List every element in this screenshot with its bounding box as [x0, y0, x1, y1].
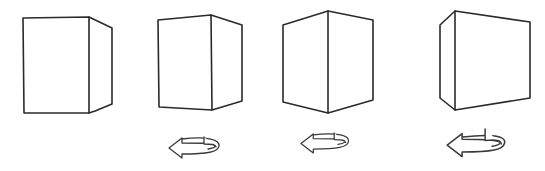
rotate-left-arrow-icon — [169, 137, 219, 158]
rotate-left-arrow-icon — [301, 133, 349, 153]
cube-2-side-face — [211, 15, 242, 110]
cube-3 — [283, 11, 373, 113]
cube-2 — [158, 15, 242, 110]
cube-1-side-face — [89, 17, 112, 113]
cube-1-front-face — [23, 17, 89, 113]
cube-4 — [440, 11, 530, 110]
cube-1 — [23, 17, 112, 113]
diagram-svg — [0, 0, 545, 171]
cube-4-outline — [440, 11, 530, 110]
cube-2-front-face — [158, 15, 212, 110]
rotation-diagram — [0, 0, 545, 171]
rotate-left-arrow-icon — [447, 129, 505, 157]
